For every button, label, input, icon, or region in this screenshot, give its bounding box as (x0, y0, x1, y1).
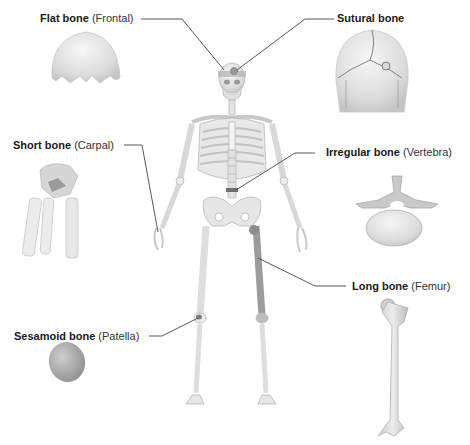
label-sutural-bone-type: Sutural bone (337, 12, 404, 24)
right-hand (297, 228, 306, 252)
sutural-highlight (231, 68, 238, 75)
left-hand (154, 228, 162, 250)
label-flat-bone-type: Flat bone (40, 12, 89, 24)
label-short-bone-type: Short bone (13, 139, 71, 151)
leader-sutural (237, 19, 334, 70)
frontal-bone-illustration (52, 32, 120, 83)
label-irregular-bone: Irregular bone (Vertebra) (326, 146, 452, 159)
label-irregular-bone-type: Irregular bone (326, 146, 400, 158)
label-sesamoid-bone-example: (Patella) (98, 330, 139, 342)
bone-diagram (0, 0, 470, 445)
vertebra-illustration (356, 176, 438, 246)
label-short-bone: Short bone (Carpal) (13, 139, 114, 152)
skull-sutural-illustration (336, 30, 408, 112)
label-flat-bone: Flat bone (Frontal) (40, 12, 134, 25)
femur-illustration (378, 299, 408, 436)
label-sesamoid-bone-type: Sesamoid bone (14, 330, 95, 342)
carpal-illustration (22, 164, 78, 258)
leader-long (258, 258, 346, 286)
label-long-bone: Long bone (Femur) (352, 280, 450, 293)
sternum (229, 122, 235, 154)
label-short-bone-example: (Carpal) (74, 139, 114, 151)
skeleton (154, 63, 306, 404)
pelvis (203, 197, 261, 226)
label-sesamoid-bone: Sesamoid bone (Patella) (14, 330, 139, 343)
patella-illustration (44, 338, 89, 386)
femur-highlight (256, 226, 262, 316)
label-long-bone-type: Long bone (352, 280, 408, 292)
label-flat-bone-example: (Frontal) (92, 12, 134, 24)
label-long-bone-example: (Femur) (411, 280, 450, 292)
label-irregular-bone-example: (Vertebra) (403, 146, 452, 158)
leader-sesamoid (149, 318, 198, 336)
label-sutural-bone: Sutural bone (337, 12, 404, 25)
leader-short (124, 145, 158, 232)
leader-flat (141, 19, 224, 70)
